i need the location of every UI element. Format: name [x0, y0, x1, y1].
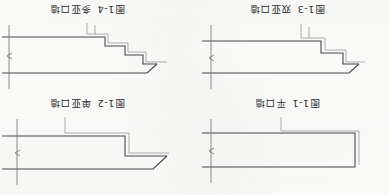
- figure-caption-1-4: 图1-4多亚口墙: [0, 3, 177, 17]
- figure-block-1-3: 图1-3双亚口墙: [197, 3, 377, 95]
- figure-caption-1-1: 图1-1平口墙: [197, 97, 377, 111]
- figure-title-1-1: 平口墙: [254, 98, 286, 109]
- scanned-drawing-page: 图1-1平口墙: [0, 0, 389, 195]
- figure-drawing-1-3: [197, 21, 377, 95]
- figure-title-1-4: 多亚口墙: [49, 4, 91, 15]
- figure-drawing-1-4: [0, 21, 177, 95]
- figure-number-1-3: 图1-3: [297, 4, 325, 15]
- figure-caption-1-2: 图1-2单亚口墙: [0, 97, 177, 111]
- figure-number-1-2: 图1-2: [97, 98, 125, 109]
- figure-number-1-1: 图1-1: [292, 98, 320, 109]
- figure-block-1-1: 图1-1平口墙: [197, 97, 377, 189]
- drawing-sheet: 图1-1平口墙: [0, 0, 389, 195]
- figure-block-1-4: 图1-4多亚口墙: [0, 3, 177, 95]
- figure-drawing-1-2: [0, 115, 177, 189]
- figure-title-1-2: 单亚口墙: [49, 98, 91, 109]
- figure-caption-1-3: 图1-3双亚口墙: [197, 3, 377, 17]
- figure-block-1-2: 图1-2单亚口墙: [0, 97, 177, 189]
- figure-number-1-4: 图1-4: [97, 4, 125, 15]
- figure-drawing-1-1: [197, 115, 377, 189]
- figure-title-1-3: 双亚口墙: [249, 4, 291, 15]
